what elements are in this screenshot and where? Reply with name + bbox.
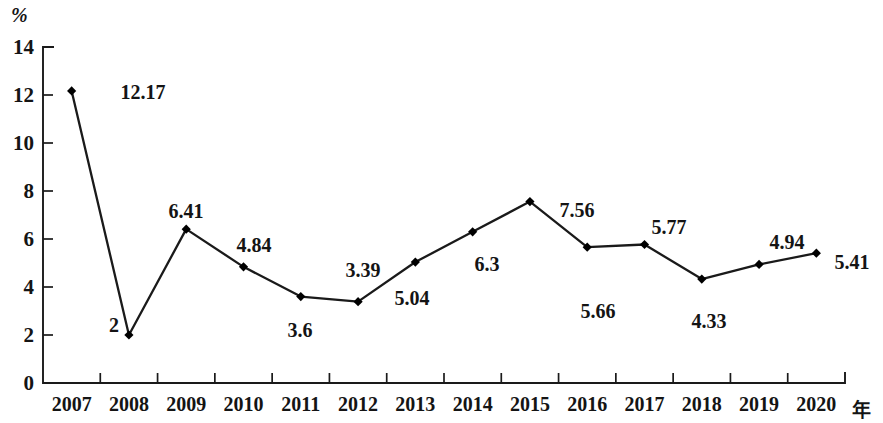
- plot-area: [0, 0, 883, 423]
- data-point-markers: [67, 86, 821, 339]
- data-series-line: [72, 91, 817, 335]
- line-chart-figure: % 年 02468101214 200720082009201020112012…: [0, 0, 883, 423]
- axis-lines: [43, 47, 845, 383]
